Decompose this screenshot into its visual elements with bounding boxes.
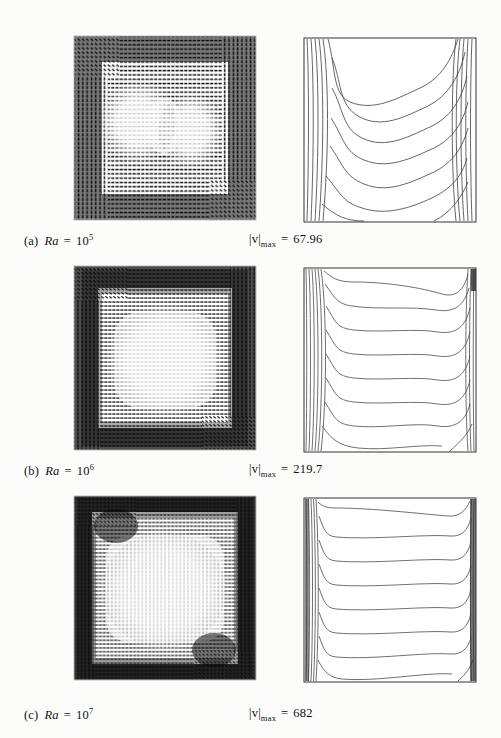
vmax-value-c: 682 — [293, 706, 312, 720]
velocity-vector-panel-a — [72, 34, 258, 222]
ra-base-c: 10 — [76, 708, 89, 722]
caption-vmax-c: |v|max=682 — [249, 706, 313, 723]
figure-row-a: (a)Ra=105 |v|max=67.96 — [0, 0, 501, 262]
velocity-vector-panel-c — [72, 494, 258, 682]
isotherm-contour-panel-b — [302, 266, 478, 454]
vmax-symbol-c: |v| — [249, 706, 261, 720]
isotherm-contour-panel-a — [302, 36, 478, 224]
ra-symbol-c: Ra — [44, 708, 58, 722]
vmax-subscript-c: max — [261, 713, 276, 723]
caption-ra-c: (c)Ra=107 — [24, 706, 93, 723]
vmax-equals-c: = — [281, 706, 288, 720]
figure-row-c: (c)Ra=107 |v|max=682 — [0, 460, 501, 738]
isotherm-contour-panel-c — [302, 496, 478, 684]
figure-row-b: (b)Ra=106 |v|max=219.7 — [0, 230, 501, 492]
ra-exponent-c: 7 — [89, 706, 93, 716]
figure-page: (a)Ra=105 |v|max=67.96 — [0, 0, 501, 738]
velocity-vector-panel-b — [72, 264, 258, 452]
equals-sign-c: = — [64, 708, 71, 722]
part-label-c: (c) — [24, 708, 38, 722]
